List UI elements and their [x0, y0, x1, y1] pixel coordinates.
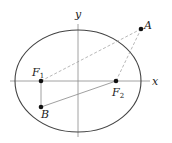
segment-b-f2	[41, 81, 116, 107]
label-a: A	[143, 19, 152, 32]
point-f2	[114, 79, 119, 84]
label-f2-main: F	[111, 86, 120, 99]
label-f1-sub: 1	[40, 72, 44, 80]
point-a	[139, 27, 144, 32]
segment-f2-a	[116, 29, 141, 81]
label-b: B	[40, 108, 49, 121]
label-f1: F1	[31, 66, 44, 80]
ellipse-diagram: y x A B F1 F2	[0, 0, 172, 143]
label-f2: F2	[111, 86, 124, 100]
label-f1-main: F	[31, 66, 40, 79]
x-axis-label: x	[152, 75, 159, 88]
segment-f1-a	[41, 29, 141, 81]
label-f2-sub: 2	[120, 92, 124, 100]
y-axis-label: y	[74, 8, 82, 21]
diagram-canvas: y x A B F1 F2	[0, 0, 172, 143]
